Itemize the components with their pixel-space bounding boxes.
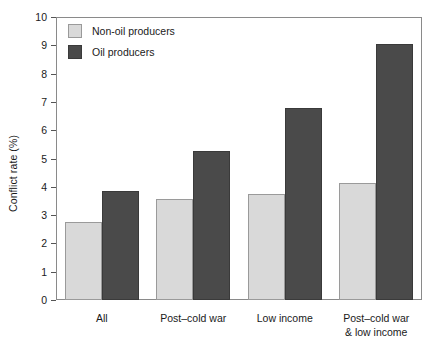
x-axis-label: Post–cold war & low income <box>306 311 436 339</box>
y-axis-tick-mark <box>51 300 56 301</box>
legend-item: Non-oil producers <box>68 24 175 38</box>
y-axis-tick-mark <box>51 187 56 188</box>
y-axis-tick-label: 6 <box>41 123 47 137</box>
y-axis-tick-label: 4 <box>41 180 47 194</box>
y-axis-tick-mark <box>51 215 56 216</box>
y-axis-tick-mark <box>51 159 56 160</box>
y-axis-tick-label: 0 <box>41 293 47 307</box>
y-axis-tick-label: 10 <box>35 10 47 24</box>
y-axis-tick-label: 1 <box>41 265 47 279</box>
y-axis-tick-label: 9 <box>41 38 47 52</box>
y-axis-tick-label: 7 <box>41 95 47 109</box>
plot-area <box>56 17 422 300</box>
legend-label: Non-oil producers <box>92 25 175 37</box>
y-axis-tick-label: 2 <box>41 236 47 250</box>
legend-swatch-light <box>68 24 82 38</box>
y-axis-title: Conflict rate (%) <box>0 0 26 347</box>
legend-label: Oil producers <box>92 46 154 58</box>
y-axis-tick-label: 5 <box>41 152 47 166</box>
legend-item: Oil producers <box>68 45 175 59</box>
legend-swatch-dark <box>68 45 82 59</box>
y-axis-tick-mark <box>51 243 56 244</box>
bar-chart: Conflict rate (%) 109876543210 AllPost–c… <box>0 0 436 347</box>
y-axis-tick-mark <box>51 130 56 131</box>
y-axis-tick-label: 8 <box>41 67 47 81</box>
y-axis-tick-mark <box>51 272 56 273</box>
y-axis-tick-mark <box>51 45 56 46</box>
legend: Non-oil producersOil producers <box>68 24 175 59</box>
y-axis-tick-mark <box>51 17 56 18</box>
y-axis-tick-mark <box>51 102 56 103</box>
y-axis-tick-mark <box>51 74 56 75</box>
y-axis-tick-label: 3 <box>41 208 47 222</box>
